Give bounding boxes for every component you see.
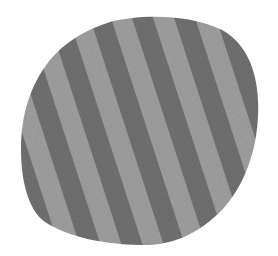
fabric-swatch [0,0,278,256]
image-canvas [0,0,278,256]
striped-fabric [0,0,278,256]
